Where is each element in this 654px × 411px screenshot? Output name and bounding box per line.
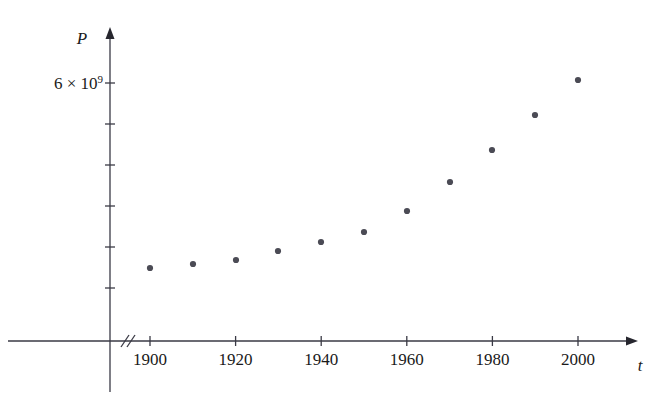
data-point-1900 (147, 265, 153, 271)
data-point-1960 (404, 208, 410, 214)
y-axis-arrow-icon (106, 27, 115, 39)
x-tick-label-1940: 1940 (304, 350, 338, 369)
x-tick-label-1980: 1980 (475, 350, 509, 369)
data-point-1970 (447, 179, 453, 185)
data-point-1910 (190, 261, 196, 267)
chart-canvas: 190019201940196019802000 6 × 109 P t (0, 0, 654, 411)
data-point-1920 (233, 257, 239, 263)
data-point-1930 (275, 248, 281, 254)
population-scatter-figure: 190019201940196019802000 6 × 109 P t (0, 0, 654, 411)
x-tick-label-2000: 2000 (561, 350, 595, 369)
y-axis-tick-label-6e9: 6 × 109 (54, 73, 104, 93)
x-tick-label-1960: 1960 (390, 350, 424, 369)
data-point-2000 (575, 77, 581, 83)
y-axis-label-P: P (76, 29, 87, 48)
data-point-1950 (361, 229, 367, 235)
x-axis-arrow-icon (626, 337, 638, 346)
data-point-1980 (489, 147, 495, 153)
x-tick-label-1900: 1900 (133, 350, 167, 369)
data-point-1940 (318, 239, 324, 245)
x-axis-label-t: t (638, 356, 644, 375)
x-tick-label-1920: 1920 (219, 350, 253, 369)
y-axis-group (106, 27, 115, 392)
x-axis-group (8, 337, 638, 346)
x-axis-tick-labels: 190019201940196019802000 (133, 350, 595, 369)
data-point-1990 (532, 112, 538, 118)
data-point-series (147, 77, 581, 271)
